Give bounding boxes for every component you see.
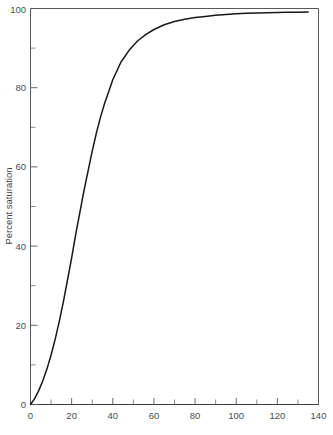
saturation-curve (31, 12, 309, 404)
oxygen-dissociation-figure: 0 20 40 60 80 100 0 2 (0, 0, 333, 435)
y-tick-label-80: 80 (15, 82, 26, 93)
y-tick-label-20: 20 (15, 320, 26, 331)
x-tick-label-100: 100 (228, 410, 244, 421)
x-tick-label-120: 120 (269, 410, 285, 421)
y-tick-label-40: 40 (15, 241, 26, 252)
y-tick-label-100: 100 (10, 4, 26, 15)
y-axis-ticks (31, 9, 38, 405)
x-tick-label-80: 80 (190, 410, 201, 421)
x-tick-label-140: 140 (311, 410, 327, 421)
x-tick-label-20: 20 (66, 410, 77, 421)
plot-frame (31, 9, 319, 405)
chart-canvas: 0 20 40 60 80 100 0 2 (0, 0, 333, 435)
x-axis-ticks (31, 398, 319, 405)
x-tick-label-60: 60 (149, 410, 160, 421)
y-tick-label-0: 0 (21, 399, 26, 410)
x-tick-label-0: 0 (28, 410, 33, 421)
y-axis-title: Percent saturation (3, 167, 14, 244)
y-tick-label-60: 60 (15, 161, 26, 172)
x-axis-tick-labels: 0 20 40 60 80 100 120 140 (28, 410, 327, 421)
x-tick-label-40: 40 (108, 410, 119, 421)
